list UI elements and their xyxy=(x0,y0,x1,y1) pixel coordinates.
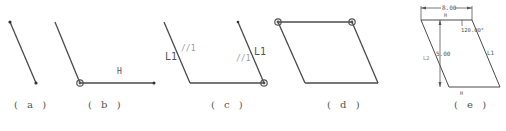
panel-b: H xyxy=(55,22,156,86)
snap-point-center xyxy=(351,21,354,24)
label-l1-right: L1 xyxy=(254,46,266,57)
angle-value: 120.00° xyxy=(461,27,484,33)
right-edge xyxy=(352,22,378,83)
endpoint-dot xyxy=(8,20,11,23)
slanted-line xyxy=(55,22,80,83)
caption-b: ( b ) xyxy=(88,99,124,110)
caption-a: ( a ) xyxy=(14,99,49,110)
endpoint-dot xyxy=(153,82,156,85)
arrowhead-icon xyxy=(467,7,472,10)
label-top-h: H xyxy=(444,12,447,18)
caption-e: ( e ) xyxy=(454,99,489,110)
snap-point-center xyxy=(79,82,82,85)
label-left-edge: L2 xyxy=(423,55,430,61)
snap-point-center xyxy=(277,21,280,24)
panel-a xyxy=(8,20,37,84)
dimension-top-value: 8.00 xyxy=(442,4,457,11)
endpoint-dot xyxy=(237,21,240,24)
dimension-height-value: 5.00 xyxy=(436,50,451,57)
snap-point-center xyxy=(263,82,266,85)
arrowhead-icon xyxy=(439,20,442,25)
label-right-edge: L1 xyxy=(487,49,495,56)
label-h: H xyxy=(117,67,122,76)
panel-d xyxy=(275,19,378,83)
label-l1-left: L1 xyxy=(165,51,177,62)
slanted-line xyxy=(10,22,36,83)
panel-e: 8.00 H 120.00° 5.00 L2 L1 H xyxy=(421,4,500,96)
label-parallel-left: //1 xyxy=(181,44,196,53)
left-edge xyxy=(278,22,305,83)
parallelogram-construction-figure: H L1 //1 L1 //1 8.00 xyxy=(0,0,506,131)
arrowhead-icon xyxy=(421,7,426,10)
label-bottom-h: H xyxy=(460,90,463,96)
endpoint-dot xyxy=(34,81,37,84)
arrowhead-icon xyxy=(439,82,442,87)
panel-c: L1 //1 L1 //1 xyxy=(164,21,267,87)
caption-c: ( c ) xyxy=(211,99,246,110)
label-parallel-right: //1 xyxy=(236,54,251,63)
caption-d: ( d ) xyxy=(327,99,363,110)
